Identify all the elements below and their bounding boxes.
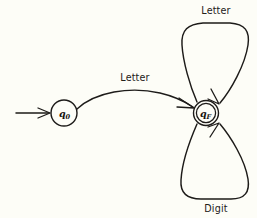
self-loop-bottom-path: [181, 124, 249, 199]
loop-label-bottom-digit: Digit: [204, 203, 227, 214]
state-q0-subscript: 0: [66, 113, 71, 121]
self-loop-top-letter[interactable]: [182, 23, 249, 104]
edge-label-letter: Letter: [120, 72, 149, 83]
start-arrow: [16, 108, 50, 118]
automaton-svg: q 0 q F Letter Letter Digit: [0, 0, 257, 218]
transition-edge-path: [77, 90, 193, 109]
transition-q0-to-qF[interactable]: [77, 90, 194, 109]
loop-label-top-letter: Letter: [201, 5, 230, 16]
self-loop-bottom-digit[interactable]: [181, 123, 249, 199]
diagram-canvas: q 0 q F Letter Letter Digit: [0, 0, 257, 218]
state-q0[interactable]: q 0: [51, 100, 77, 126]
self-loop-top-path: [182, 23, 249, 103]
state-qF[interactable]: q F: [194, 101, 219, 126]
